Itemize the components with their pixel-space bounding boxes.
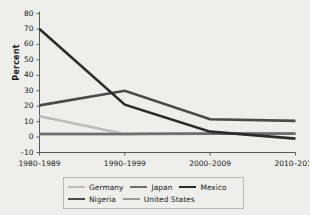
y-tick-label: 40 [12,70,34,79]
x-tick-label: 1980–1989 [10,159,70,168]
x-tick-label: 2010–2011 [266,159,310,168]
y-tick-label: 70 [12,24,34,33]
legend-item-nigeria[interactable]: Nigeria [68,195,116,204]
legend-label: Japan [151,183,172,192]
legend-label: Mexico [200,183,226,192]
legend-swatch-icon [123,198,140,201]
x-tick-label: 1990–1999 [95,159,155,168]
y-tick-label: 0 [12,132,34,141]
y-tick-label: 30 [12,86,34,95]
legend-label: Nigeria [89,195,116,204]
legend-row: Nigeria United States [68,193,239,205]
y-tick-label: 60 [12,39,34,48]
legend-item-united-states[interactable]: United States [123,195,195,204]
y-tick-label: 80 [12,9,34,18]
legend-item-mexico[interactable]: Mexico [179,183,226,192]
x-tick-label: 2000–2009 [180,159,240,168]
y-tick-label: 20 [12,101,34,110]
legend-swatch-icon [68,198,85,201]
legend-label: Germany [89,183,123,192]
legend-item-germany[interactable]: Germany [68,183,123,192]
y-tick-label: –10 [12,148,34,157]
chart-figure: Percent –1001020304050607080 1980–198919… [0,0,309,215]
y-tick-label: 10 [12,117,34,126]
legend-swatch-icon [130,186,147,189]
y-tick-label: 50 [12,55,34,64]
chart-legend: Germany Japan Mexico Nigeria United Stat… [63,177,244,209]
legend-item-japan[interactable]: Japan [130,183,172,192]
legend-swatch-icon [179,186,196,189]
legend-swatch-icon [68,186,85,189]
legend-label: United States [144,195,195,204]
legend-row: Germany Japan Mexico [68,181,239,193]
